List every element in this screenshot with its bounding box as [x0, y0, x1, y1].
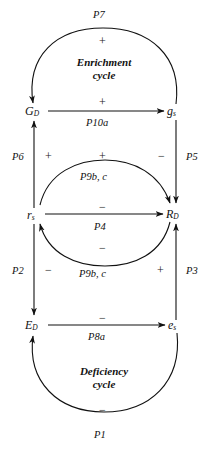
path-label-p7: P7: [93, 10, 105, 21]
sign-p10a-row: +: [99, 96, 106, 108]
node-G-D[interactable]: GD: [25, 105, 39, 118]
path-label-p10a: P10a: [86, 118, 108, 129]
sign-p2-left-lower: −: [45, 264, 52, 276]
node-g-s-sub: s: [173, 109, 176, 118]
sign-p9bc-lower-arc: −: [99, 242, 106, 254]
path-label-p5: P5: [186, 152, 198, 163]
node-E-D-sub: D: [32, 323, 37, 332]
deficiency-cycle-line2: cycle: [53, 378, 155, 391]
path-label-p4: P4: [94, 222, 106, 233]
sign-p9bc-upper-arc: +: [99, 150, 106, 162]
sign-p4-row: −: [99, 201, 106, 213]
deficiency-cycle-line1: Deficiency: [53, 365, 155, 378]
node-G-D-base: G: [25, 104, 34, 118]
sign-p5-right-upper: −: [158, 150, 165, 162]
path-label-p9bc-lower: P9b, c: [79, 269, 106, 280]
path-label-p8a: P8a: [88, 332, 105, 343]
node-R-D-sub: D: [173, 212, 178, 221]
sign-p6-left-upper: +: [45, 150, 52, 162]
path-label-p9bc-upper: P9b, c: [80, 172, 107, 183]
enrichment-cycle-line2: cycle: [53, 69, 155, 82]
node-G-D-sub: D: [34, 109, 39, 118]
path-label-p1: P1: [94, 430, 106, 441]
path-label-p6: P6: [12, 152, 24, 163]
causal-loop-diagram: GD gs rs RD ED es P7 P10a P6 P5 P9b, c P…: [0, 0, 207, 454]
node-e-s-sub: s: [173, 323, 176, 332]
node-R-D[interactable]: RD: [166, 208, 179, 221]
sign-bottom-arc: −: [99, 404, 106, 416]
enrichment-cycle-caption: Enrichment cycle: [53, 56, 155, 82]
deficiency-cycle-caption: Deficiency cycle: [53, 365, 155, 391]
sign-p3-right-lower: +: [157, 264, 164, 276]
sign-top-arc: +: [99, 35, 106, 47]
node-g-s[interactable]: gs: [167, 105, 176, 118]
node-E-D[interactable]: ED: [25, 319, 38, 332]
node-e-s[interactable]: es: [168, 319, 176, 332]
path-label-p3: P3: [186, 266, 198, 277]
enrichment-cycle-line1: Enrichment: [53, 56, 155, 69]
edge-p9bc-upper-arc: [40, 160, 170, 205]
node-r-s-sub: s: [32, 213, 35, 222]
sign-p8a-row: −: [99, 312, 106, 324]
node-r-s[interactable]: rs: [27, 209, 35, 222]
path-label-p2: P2: [12, 266, 24, 277]
